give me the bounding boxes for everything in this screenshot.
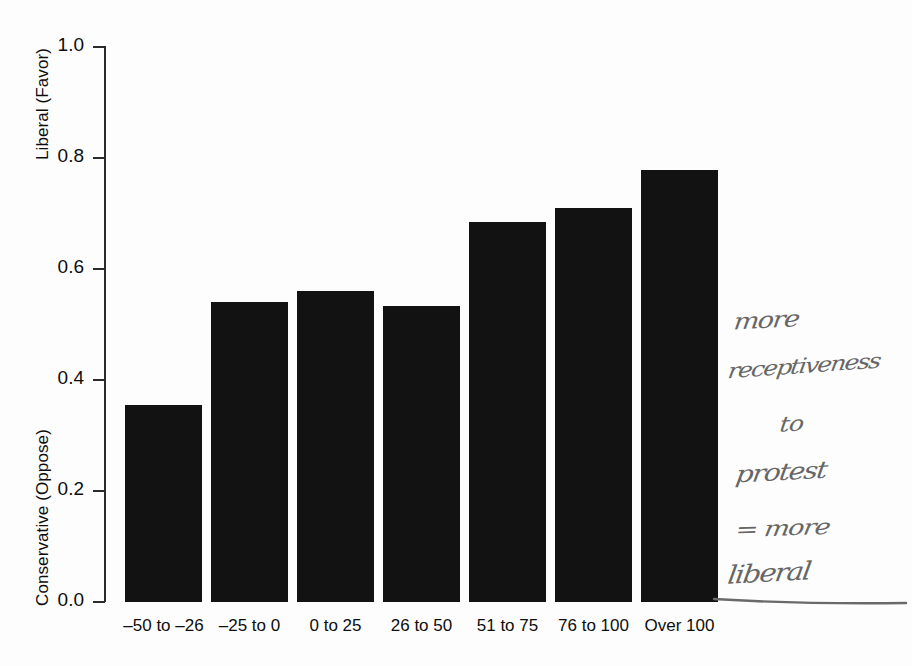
- x-tick-label: Over 100: [620, 616, 740, 636]
- bar: [469, 222, 546, 602]
- bar: [125, 405, 202, 602]
- handwritten-annotation: more receptiveness to protest = more lib…: [726, 300, 912, 600]
- y-axis-title-liberal: Liberal (Favor): [33, 48, 53, 160]
- annotation-line: receptiveness: [726, 348, 881, 383]
- y-tick-label: 0.8: [24, 145, 84, 167]
- y-tick-label: 0.2: [24, 478, 84, 500]
- y-tick-label: 1.0: [24, 34, 84, 56]
- y-tick-label: 0.4: [24, 367, 84, 389]
- y-axis-title-conservative: Conservative (Oppose): [33, 429, 53, 606]
- bar: [555, 208, 632, 602]
- bar: [211, 302, 288, 602]
- annotation-line: more: [732, 305, 800, 335]
- annotation-underline-stroke: [712, 596, 908, 606]
- bar: [297, 291, 374, 602]
- annotation-line: to: [778, 411, 804, 437]
- annotation-line: protest: [734, 456, 828, 489]
- annotation-line: = more: [734, 514, 831, 542]
- chart-figure: Liberal (Favor) Conservative (Oppose) 1.…: [0, 0, 912, 666]
- bar: [641, 170, 718, 602]
- bar: [383, 306, 460, 602]
- y-tick-label: 0.6: [24, 256, 84, 278]
- annotation-line: liberal: [726, 556, 812, 590]
- plot-area: [104, 46, 720, 602]
- y-tick-label: 0.0: [24, 589, 84, 611]
